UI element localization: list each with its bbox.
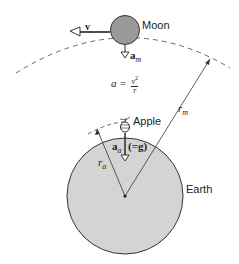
- apple-icon: [120, 117, 130, 132]
- apple-orbit: [88, 122, 125, 134]
- r-moon-label: rm: [178, 102, 188, 117]
- r-apple-label: ra: [98, 156, 106, 171]
- formula: a = v2 r: [111, 74, 138, 95]
- earth-label: Earth: [186, 183, 212, 195]
- apple-accel-note: (=g): [128, 140, 147, 152]
- moon-label: Moon: [142, 19, 170, 31]
- moon: [111, 16, 140, 45]
- velocity-label: v: [85, 21, 90, 32]
- apple-label: Apple: [133, 115, 161, 127]
- apple-accel-label: aa: [112, 140, 122, 155]
- diagram-canvas: [0, 0, 239, 264]
- moon-accel-label: am: [130, 49, 141, 64]
